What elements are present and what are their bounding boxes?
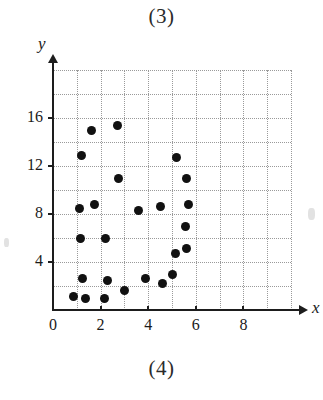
y-axis-tick-label: 16	[17, 108, 43, 126]
x-axis-tick	[242, 306, 244, 311]
data-point	[171, 249, 180, 258]
y-axis-tick	[48, 117, 54, 119]
data-point	[182, 244, 191, 253]
gridline-horizontal	[53, 70, 291, 71]
data-point	[87, 126, 96, 135]
data-point	[77, 151, 86, 160]
data-point	[182, 174, 191, 183]
x-axis-tick	[147, 306, 149, 311]
x-axis-tick-label: 6	[184, 316, 208, 334]
y-axis-tick-label: 12	[17, 156, 43, 174]
gridline-horizontal	[53, 286, 291, 287]
x-axis-label: x	[312, 298, 320, 318]
y-axis-label: y	[38, 34, 46, 54]
gridline-vertical	[291, 70, 292, 310]
data-point	[76, 234, 85, 243]
x-axis-tick-label: 4	[136, 316, 160, 334]
data-point	[75, 204, 84, 213]
data-point	[134, 206, 143, 215]
y-axis-tick	[48, 213, 54, 215]
gridline-horizontal	[53, 142, 291, 143]
data-point	[168, 270, 177, 279]
y-axis-tick	[48, 165, 54, 167]
y-axis-tick-label: 4	[17, 252, 43, 270]
scatter-plot: 48121602468 y x	[0, 0, 323, 348]
gridline-horizontal	[53, 190, 291, 191]
data-point	[90, 200, 99, 209]
x-axis-line	[52, 309, 299, 311]
data-point	[114, 174, 123, 183]
gridline-horizontal	[53, 94, 291, 95]
data-point	[69, 292, 78, 301]
x-axis-tick	[100, 306, 102, 311]
scan-artifact-right	[308, 208, 315, 220]
gridline-horizontal	[53, 238, 291, 239]
gridline-horizontal	[53, 214, 291, 215]
data-point	[113, 121, 122, 130]
data-point	[120, 286, 129, 295]
data-point	[172, 153, 181, 162]
x-axis-tick-label: 0	[41, 316, 65, 334]
data-point	[100, 294, 109, 303]
data-point	[158, 279, 167, 288]
data-point	[181, 222, 190, 231]
data-point	[101, 234, 110, 243]
y-axis-tick	[48, 261, 54, 263]
scan-artifact-left	[4, 238, 9, 247]
x-axis-tick-label: 8	[231, 316, 255, 334]
y-axis-arrow-icon	[48, 54, 58, 63]
y-axis-tick-label: 8	[17, 204, 43, 222]
data-point	[156, 202, 165, 211]
y-axis-line	[52, 62, 54, 311]
data-point	[81, 294, 90, 303]
data-point	[184, 200, 193, 209]
gridline-horizontal	[53, 166, 291, 167]
gridline-horizontal	[53, 118, 291, 119]
data-point	[78, 274, 87, 283]
x-axis-tick-label: 2	[89, 316, 113, 334]
gridline-horizontal	[53, 262, 291, 263]
data-point	[103, 276, 112, 285]
figure-label-bottom: (4)	[0, 356, 323, 381]
x-axis-tick	[195, 306, 197, 311]
x-axis-arrow-icon	[299, 305, 308, 315]
